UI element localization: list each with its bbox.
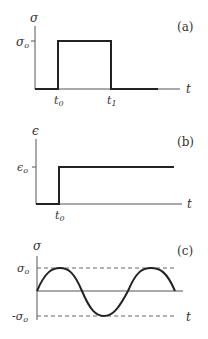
sine-curve bbox=[37, 268, 175, 316]
level-label: σo bbox=[16, 35, 29, 50]
x-axis-label: t bbox=[186, 82, 191, 96]
neg-level-label: -σo bbox=[12, 310, 28, 324]
level-label: ϵo bbox=[17, 161, 28, 175]
y-axis-label: ϵ bbox=[32, 124, 39, 138]
y-axis-label: σ bbox=[30, 11, 39, 25]
y-axis-label: σ bbox=[33, 239, 42, 253]
panel-a: σ σo t t0 t1 (a) bbox=[16, 11, 194, 108]
tick-t0: t0 bbox=[55, 209, 65, 223]
panel-b: ϵ ϵo t t0 (b) bbox=[17, 124, 194, 223]
panel-label: (c) bbox=[177, 244, 193, 258]
tick-t1: t1 bbox=[107, 94, 117, 108]
step-curve bbox=[36, 167, 174, 204]
x-axis-label: t bbox=[186, 310, 191, 324]
panel-c: σ σo -σo t (c) bbox=[12, 239, 193, 324]
x-axis-label: t bbox=[187, 197, 192, 211]
pulse-curve bbox=[35, 41, 158, 89]
tick-t0: t0 bbox=[54, 94, 64, 108]
diagram-canvas: σ σo t t0 t1 (a) ϵ ϵo t t0 (b) σ σo -σo … bbox=[0, 0, 208, 339]
panel-label: (b) bbox=[177, 135, 194, 149]
panel-label: (a) bbox=[177, 20, 194, 34]
level-label: σo bbox=[17, 262, 30, 276]
